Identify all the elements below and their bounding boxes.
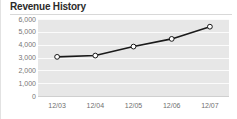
series-markers: [55, 24, 213, 59]
data-point-marker: [93, 53, 98, 58]
data-point-marker: [55, 54, 60, 59]
revenue-history-chart-widget: Revenue History 6,0005,0004,0003,0002,00…: [0, 0, 237, 119]
y-axis-tick-label: 2,000: [2, 67, 36, 74]
data-point-marker: [208, 24, 213, 29]
page-title: Revenue History: [10, 1, 86, 12]
x-axis-tick-label: 12/07: [201, 102, 219, 109]
title-divider: [10, 14, 232, 15]
x-axis-tick-label: 12/05: [125, 102, 143, 109]
y-axis-tick-label: 5,000: [2, 28, 36, 35]
x-axis-tick-label: 12/06: [163, 102, 181, 109]
data-point-marker: [169, 36, 174, 41]
x-axis-tick-label: 12/03: [48, 102, 66, 109]
revenue-line-series: [38, 19, 229, 96]
y-axis-labels: 6,0005,0004,0003,0002,0001,0000: [1, 17, 36, 99]
y-axis-tick-label: 1,000: [2, 80, 36, 87]
chart-plot-wrapper: 6,0005,0004,0003,0002,0001,0000 12/0312/…: [1, 17, 237, 119]
chart-baseline-axis: [38, 96, 229, 97]
y-axis-tick-label: 6,000: [2, 16, 36, 23]
x-axis-tick-label: 12/04: [87, 102, 105, 109]
y-axis-tick-label: 3,000: [2, 54, 36, 61]
data-point-marker: [131, 44, 136, 49]
y-axis-tick-label: 4,000: [2, 41, 36, 48]
series-line-path: [57, 27, 210, 57]
y-axis-tick-label: 0: [2, 93, 36, 100]
